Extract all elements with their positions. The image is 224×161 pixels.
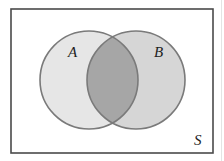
venn-diagram-canvas: A B S <box>0 0 224 161</box>
set-a-label: A <box>67 44 78 60</box>
venn-diagram: A B S <box>0 0 224 161</box>
set-b-label: B <box>154 44 163 60</box>
universe-set-s-label: S <box>194 132 202 148</box>
edge-line <box>221 0 222 161</box>
